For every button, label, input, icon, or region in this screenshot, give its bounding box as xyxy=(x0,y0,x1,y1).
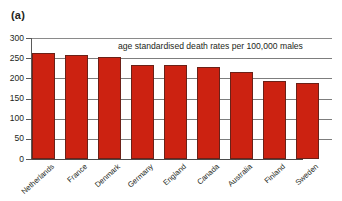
y-tick-label-150: 150 xyxy=(10,94,24,103)
bar-denmark xyxy=(98,57,121,159)
bar-sweden xyxy=(296,83,319,159)
y-tick-label-200: 200 xyxy=(10,74,24,83)
bar-england xyxy=(164,65,187,159)
y-tick-label-50: 50 xyxy=(15,134,24,143)
bar-canada xyxy=(197,67,220,159)
bar-germany xyxy=(131,65,154,159)
panel-label: (a) xyxy=(11,9,25,22)
x-axis-labels: Netherlands France Denmark Germany Engla… xyxy=(31,160,332,201)
bar-netherlands xyxy=(32,53,55,159)
bar-series xyxy=(31,38,332,159)
bar-australia xyxy=(230,72,253,159)
y-tick-label-250: 250 xyxy=(10,54,24,63)
bar-france xyxy=(65,55,88,159)
bar-finland xyxy=(263,81,286,159)
y-tick-label-0: 0 xyxy=(19,155,24,164)
chart-annotation: age standardised death rates per 100,000… xyxy=(118,41,303,52)
y-tick-label-100: 100 xyxy=(10,114,24,123)
y-tick-label-300: 300 xyxy=(10,34,24,43)
figure-panel-a: (a) 300 250 200 150 100 50 0 age standar… xyxy=(0,0,342,201)
